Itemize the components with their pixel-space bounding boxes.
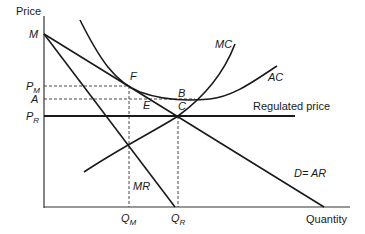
y-tick-pr: PR <box>26 110 39 125</box>
mc-curve <box>84 44 235 172</box>
mr-curve <box>44 34 175 207</box>
point-c: C <box>178 100 186 112</box>
x-axis-label: Quantity <box>306 213 347 225</box>
point-e: E <box>143 99 151 111</box>
demand-label: D= AR <box>294 167 326 179</box>
monopoly-regulation-diagram: Price Quantity M PM A PR QM QR MC AC MR … <box>0 0 365 234</box>
ac-label: AC <box>267 71 283 83</box>
y-axis-label: Price <box>16 5 41 17</box>
point-f: F <box>130 70 138 82</box>
mc-label: MC <box>215 38 232 50</box>
x-tick-qm: QM <box>121 212 137 227</box>
regulated-price-label: Regulated price <box>253 100 330 112</box>
point-b: B <box>178 87 185 99</box>
y-tick-a: A <box>30 93 38 105</box>
y-tick-m: M <box>29 28 39 40</box>
mr-label: MR <box>133 180 150 192</box>
x-tick-qr: QR <box>171 212 186 227</box>
demand-curve <box>44 34 324 207</box>
